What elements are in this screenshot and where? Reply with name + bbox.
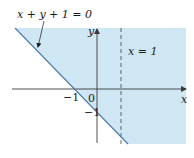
origin-label: 0 xyxy=(88,92,95,105)
shaded-region xyxy=(15,28,186,144)
x-intercept-label: −1 xyxy=(63,91,79,104)
vertical-line-label: x = 1 xyxy=(128,45,157,58)
y-axis-label: y xyxy=(87,25,95,38)
y-intercept-label: −1 xyxy=(84,106,100,119)
x-axis-label: x xyxy=(181,93,188,106)
graph-figure: x + y + 1 = 0 x = 1 y x 0 −1 −1 xyxy=(0,0,194,158)
boundary-equation-label: x + y + 1 = 0 xyxy=(17,8,92,21)
